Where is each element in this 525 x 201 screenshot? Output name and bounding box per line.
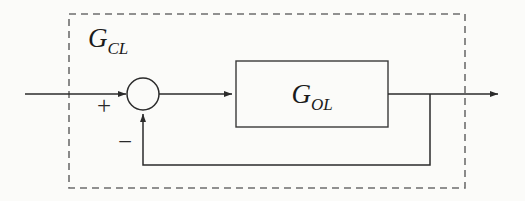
closed-loop-label: GCL [88,23,128,58]
open-loop-label-subscript: OL [311,95,333,114]
closed-loop-label-base: G [88,23,108,53]
negative-sign-label: − [118,128,132,155]
closed-loop-label-subscript: CL [108,39,129,58]
summing-junction [127,78,159,110]
open-loop-label-base: G [291,79,311,109]
open-loop-block [236,61,388,127]
positive-sign-label: + [97,92,111,119]
block-diagram-canvas: GCL + GOL − [0,0,525,201]
block-diagram-svg: GCL + GOL − [0,0,525,201]
